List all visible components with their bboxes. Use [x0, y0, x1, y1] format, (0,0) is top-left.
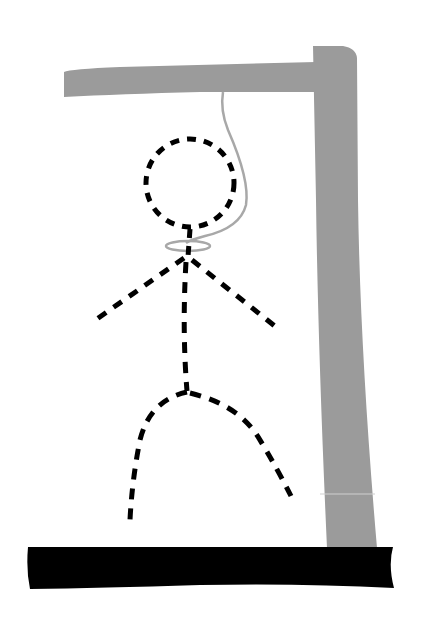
right-arm [192, 260, 276, 327]
hangman-illustration [0, 0, 423, 631]
left-leg [130, 392, 187, 520]
gallows-post [313, 46, 377, 548]
right-leg [190, 393, 291, 496]
gallows-beam [64, 62, 316, 97]
ground-base [27, 547, 394, 589]
body [184, 262, 187, 391]
left-arm [94, 258, 184, 321]
head [146, 139, 234, 227]
